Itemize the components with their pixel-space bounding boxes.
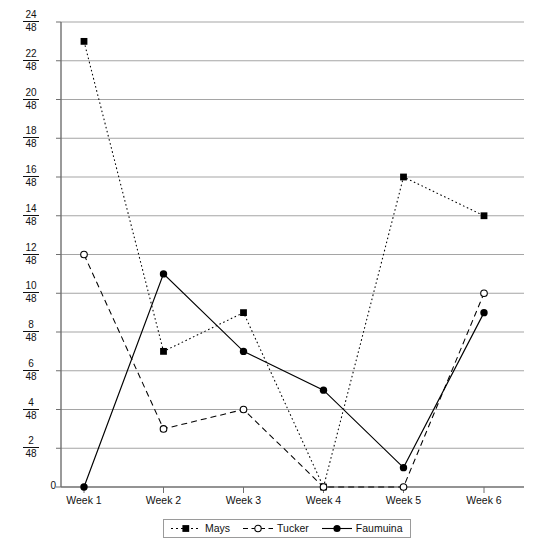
marker-filled-square xyxy=(481,212,488,219)
marker-filled-circle xyxy=(240,348,247,355)
marker-filled-circle xyxy=(400,464,407,471)
gridlines xyxy=(61,22,524,448)
series-line xyxy=(84,274,484,487)
marker-filled-circle xyxy=(160,270,167,277)
marker-open-circle xyxy=(81,251,88,258)
marker-open-circle xyxy=(160,426,167,433)
filled-square-dotted-line-icon xyxy=(171,523,201,534)
legend-item-tucker[interactable]: Tucker xyxy=(243,523,309,534)
marker-open-circle xyxy=(481,290,488,297)
y-axis-ticks xyxy=(56,22,61,487)
chart-legend: MaysTuckerFaumuina xyxy=(163,519,411,538)
series-layer xyxy=(80,38,487,491)
legend-item-faumuina[interactable]: Faumuina xyxy=(322,523,403,534)
line-chart: 2448224820481848164814481248104884864844… xyxy=(0,0,535,555)
marker-open-circle xyxy=(320,484,327,491)
legend-label: Tucker xyxy=(277,523,309,534)
marker-filled-square xyxy=(400,174,407,181)
marker-filled-circle xyxy=(80,483,87,490)
marker-filled-circle xyxy=(480,309,487,316)
marker-filled-square xyxy=(81,38,88,45)
marker-open-circle xyxy=(400,484,407,491)
marker-filled-square xyxy=(240,309,247,316)
marker-filled-square xyxy=(160,348,167,355)
marker-filled-circle xyxy=(320,386,327,393)
series-line xyxy=(84,41,484,487)
open-circle-dashed-line-icon xyxy=(243,523,273,534)
legend-label: Mays xyxy=(205,523,230,534)
legend-item-mays[interactable]: Mays xyxy=(171,523,230,534)
series-faumuina xyxy=(80,270,487,491)
filled-circle-solid-line-icon xyxy=(322,523,352,534)
plot-area xyxy=(0,0,535,555)
marker-open-circle xyxy=(240,406,247,413)
legend-label: Faumuina xyxy=(356,523,403,534)
x-axis-ticks xyxy=(84,487,484,493)
